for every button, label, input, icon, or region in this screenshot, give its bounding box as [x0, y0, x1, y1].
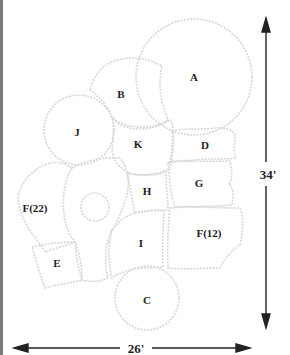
bed-label-a: A [190, 72, 198, 83]
bed-label-g: G [195, 178, 204, 189]
bed-label-d: D [201, 140, 209, 151]
bed-b-outline [90, 58, 168, 129]
bed-label-h: H [143, 186, 152, 197]
bed-label-j: J [74, 127, 80, 138]
width-dimension-label: 26' [126, 342, 147, 355]
garden-plan-diagram: A B J K D G H F(22) I F(12) E C 34' 26' [0, 0, 290, 355]
bed-label-e: E [53, 258, 60, 269]
bed-label-c: C [143, 295, 151, 306]
bed-label-f22: F(22) [22, 203, 47, 214]
inner-feature-circle [81, 193, 109, 221]
bed-label-i: I [139, 238, 143, 249]
height-dimension-label: 34' [258, 168, 279, 181]
bed-label-f12: F(12) [196, 228, 221, 239]
bed-label-k: K [134, 139, 143, 150]
bed-label-b: B [117, 89, 124, 100]
